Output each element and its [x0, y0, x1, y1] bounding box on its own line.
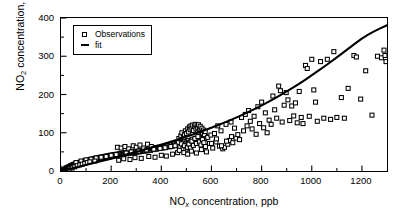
- legend-entry-fit: fit: [78, 40, 145, 50]
- legend-label-fit: fit: [95, 40, 102, 50]
- chart-legend: Observations fit: [73, 25, 152, 55]
- y-tick-label: 100: [20, 126, 54, 137]
- x-axis-title-subscript: x: [185, 200, 189, 209]
- y-tick-label: 0: [20, 165, 54, 176]
- x-axis-title-suffix: concentration, ppb: [189, 195, 278, 207]
- x-tick-label: 600: [203, 175, 219, 186]
- legend-label-observations: Observations: [95, 29, 145, 39]
- x-axis-title: NOx concentration, ppb: [60, 195, 388, 207]
- y-tick-label: 400: [20, 12, 54, 23]
- y-axis-title-subscript: 2: [19, 71, 28, 75]
- x-tick-label: 800: [253, 175, 269, 186]
- x-tick-label: 1000: [300, 175, 321, 186]
- y-tick-label: 200: [20, 88, 54, 99]
- legend-entry-observations: Observations: [78, 29, 145, 39]
- chart-figure: NO2 concentration, ppb NOx concentration…: [0, 0, 403, 216]
- open-square-icon: [78, 32, 91, 37]
- y-tick-label: 300: [20, 50, 54, 61]
- scatter-points: [61, 48, 387, 171]
- x-axis-title-prefix: NO: [170, 195, 186, 207]
- x-tick-label: 0: [57, 175, 62, 186]
- x-tick-label: 1200: [350, 175, 371, 186]
- line-icon: [78, 44, 91, 46]
- x-tick-label: 200: [102, 175, 118, 186]
- x-tick-label: 400: [152, 175, 168, 186]
